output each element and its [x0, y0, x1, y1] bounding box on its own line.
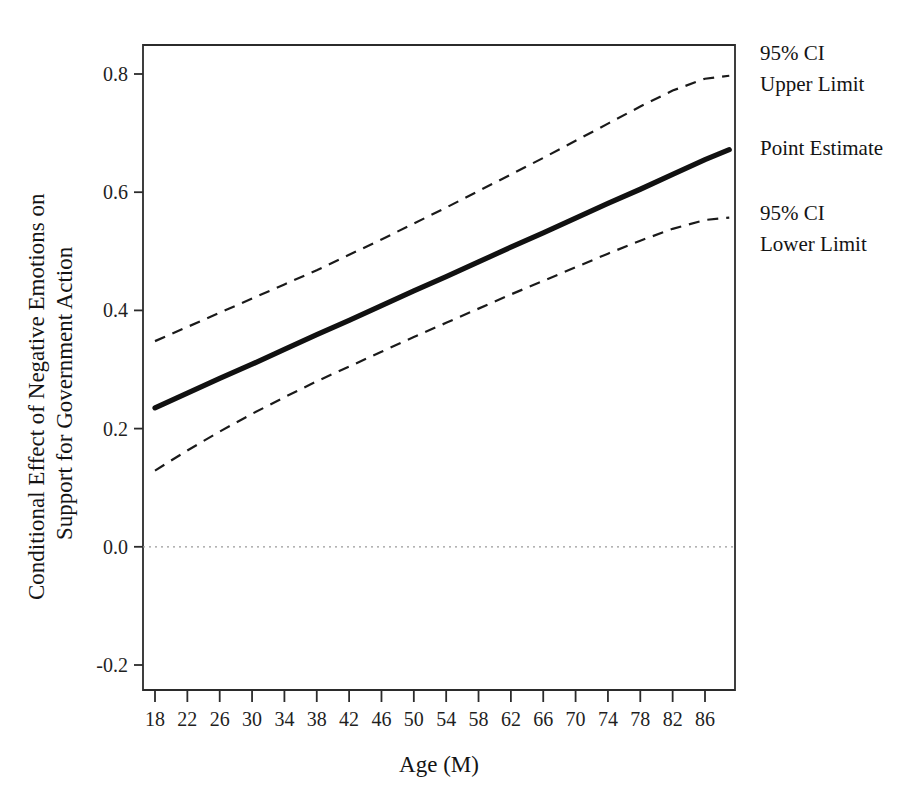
x-tick-label: 50 [404, 708, 424, 730]
series-line-95-ci-lower-limit [155, 218, 729, 471]
plot-frame [143, 45, 735, 690]
x-tick-label: 70 [566, 708, 586, 730]
x-tick-label: 30 [242, 708, 262, 730]
y-axis-title-group: Conditional Effect of Negative Emotions … [24, 193, 77, 600]
y-tick-label: -0.2 [96, 654, 128, 676]
x-tick-label: 74 [598, 708, 618, 730]
x-tick-label: 26 [210, 708, 230, 730]
x-axis-tick-marks [155, 690, 705, 702]
x-tick-label: 62 [501, 708, 521, 730]
x-tick-label: 78 [630, 708, 650, 730]
y-tick-label: 0.4 [103, 299, 128, 321]
data-series-group [155, 76, 729, 471]
x-tick-label: 38 [307, 708, 327, 730]
point-estimate-annotation: Point Estimate [760, 136, 883, 160]
x-tick-label: 86 [695, 708, 715, 730]
y-axis-tick-marks [134, 74, 143, 665]
x-tick-label: 46 [371, 708, 391, 730]
y-axis-tick-labels: 0.80.60.40.20.0-0.2 [96, 63, 128, 676]
series-line-point-estimate [155, 150, 729, 408]
x-tick-label: 34 [274, 708, 294, 730]
x-axis-title: Age (M) [399, 752, 479, 777]
x-tick-label: 66 [533, 708, 553, 730]
ci-upper-annotation-line2: Upper Limit [760, 72, 865, 96]
y-tick-label: 0.6 [103, 181, 128, 203]
plot-frame-box [143, 45, 735, 690]
x-tick-label: 18 [145, 708, 165, 730]
series-line-95-ci-upper-limit [155, 76, 729, 341]
y-tick-label: 0.2 [103, 418, 128, 440]
figure-container: 0.80.60.40.20.0-0.2 18222630343842465054… [0, 0, 909, 802]
ci-upper-annotation: 95% CI [760, 41, 825, 65]
conditional-effect-line-chart: 0.80.60.40.20.0-0.2 18222630343842465054… [0, 0, 909, 802]
ci-lower-annotation-line2: Lower Limit [760, 232, 867, 256]
x-tick-label: 54 [436, 708, 456, 730]
y-tick-label: 0.8 [103, 63, 128, 85]
series-annotations: 95% CIUpper LimitPoint Estimate95% CILow… [760, 41, 883, 256]
x-tick-label: 22 [177, 708, 197, 730]
x-tick-label: 42 [339, 708, 359, 730]
y-tick-label: 0.0 [103, 536, 128, 558]
x-tick-label: 82 [663, 708, 683, 730]
y-axis-title-line1: Conditional Effect of Negative Emotions … [24, 193, 49, 600]
x-tick-label: 58 [469, 708, 489, 730]
ci-lower-annotation: 95% CI [760, 201, 825, 225]
x-axis-tick-labels: 182226303438424650545862667074788286 [145, 708, 715, 730]
y-axis-title-line2: Support for Government Action [52, 246, 77, 540]
